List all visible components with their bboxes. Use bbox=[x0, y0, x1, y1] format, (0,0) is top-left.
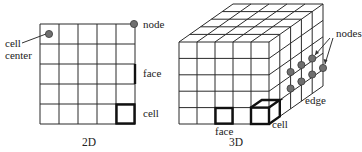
label-cell-2d: cell bbox=[143, 107, 159, 119]
panel-3d: nodes edge face cell 3D bbox=[179, 4, 362, 148]
label-nodes: nodes bbox=[336, 27, 362, 39]
node-dot-2d bbox=[130, 20, 137, 27]
cell-center-leader bbox=[22, 34, 46, 43]
label-face-2d: face bbox=[143, 67, 161, 79]
caption-2d: 2D bbox=[82, 136, 96, 148]
node-dots-3d bbox=[287, 55, 327, 92]
cell-2d-highlight bbox=[117, 105, 135, 124]
label-node: node bbox=[143, 18, 165, 30]
label-cell-center-1: cell bbox=[5, 37, 21, 49]
cube-front-face bbox=[179, 42, 269, 124]
label-cell-center-2: center bbox=[5, 49, 32, 61]
cube-side-face bbox=[269, 4, 323, 124]
label-edge: edge bbox=[305, 94, 326, 106]
nodes-arrows bbox=[315, 38, 333, 64]
label-cell-3d: cell bbox=[272, 118, 288, 130]
face-3d-highlight bbox=[216, 108, 233, 124]
grid-2d bbox=[40, 24, 135, 124]
caption-3d: 3D bbox=[229, 136, 243, 148]
cell-center-dot bbox=[45, 30, 52, 37]
panel-2d: cell center node face cell 2D bbox=[5, 18, 165, 148]
mesh-diagram: cell center node face cell 2D bbox=[0, 0, 362, 152]
